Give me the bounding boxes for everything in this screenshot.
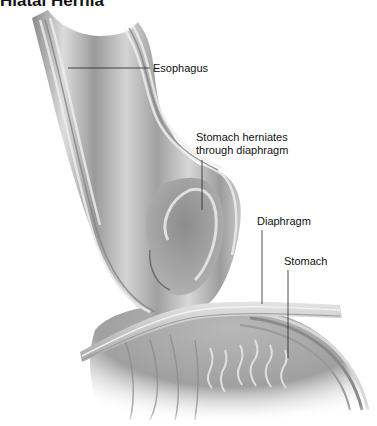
stomach-label: Stomach — [284, 255, 327, 268]
diaphragm-label: Diaphragm — [257, 215, 311, 228]
herniation-label-line2: through diaphragm — [196, 144, 288, 157]
esophagus-label: Esophagus — [153, 62, 208, 75]
herniation-label-line1: Stomach herniates — [196, 131, 288, 144]
